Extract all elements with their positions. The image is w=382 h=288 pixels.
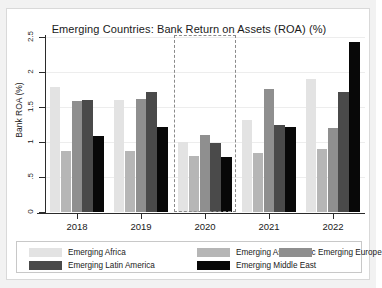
x-axis-line: [37, 213, 365, 214]
bar: [157, 127, 167, 212]
bar: [146, 92, 156, 212]
bar: [317, 149, 327, 212]
y-tick-mark: [39, 177, 45, 178]
y-tick-label: 2: [26, 63, 35, 81]
y-tick-label: 1.5: [26, 98, 35, 116]
y-tick-label: 0: [26, 203, 35, 221]
bar: [264, 89, 274, 212]
bar: [242, 120, 252, 212]
x-tick-mark: [77, 214, 78, 219]
bar: [178, 142, 188, 212]
y-tick-mark: [39, 107, 45, 108]
bar: [285, 127, 295, 212]
bar: [306, 79, 316, 212]
bar: [221, 157, 231, 212]
chart-title: Emerging Countries: Bank Return on Asset…: [7, 23, 371, 35]
legend-swatch-icon: [29, 248, 62, 257]
x-tick-label: 2021: [246, 221, 292, 232]
bar: [253, 153, 263, 213]
bar: [93, 136, 103, 212]
legend-item[interactable]: Emerging Africa: [29, 245, 126, 259]
y-tick-label: 2.5: [26, 28, 35, 46]
x-tick-mark: [333, 214, 334, 219]
legend-label: Emerging Europe: [318, 248, 382, 257]
y-axis-line: [45, 35, 46, 214]
bar: [114, 100, 124, 212]
bar: [136, 99, 146, 212]
bar: [328, 128, 338, 212]
gridline: [45, 37, 365, 38]
legend-swatch-icon: [279, 248, 312, 257]
legend-label: Emerging Africa: [68, 248, 126, 257]
bar: [349, 42, 359, 212]
bar: [72, 101, 82, 212]
x-tick-label: 2022: [310, 221, 356, 232]
legend-label: Emerging Latin America: [68, 261, 155, 270]
x-tick-mark: [205, 214, 206, 219]
legend-swatch-icon: [197, 248, 230, 257]
figure-canvas: Emerging Countries: Bank Return on Asset…: [6, 8, 370, 280]
bar: [189, 156, 199, 212]
legend-item[interactable]: Emerging Middle East: [197, 258, 316, 272]
x-tick-mark: [269, 214, 270, 219]
legend-row: Emerging AfricaEmerging Asia-PacificEmer…: [17, 245, 361, 259]
y-tick-mark: [39, 37, 45, 38]
bar: [50, 87, 60, 212]
bar: [125, 151, 135, 212]
legend-item[interactable]: Emerging Europe: [279, 245, 382, 259]
bar: [200, 135, 210, 212]
bar: [82, 100, 92, 212]
y-tick-mark: [39, 212, 45, 213]
x-tick-label: 2019: [118, 221, 164, 232]
legend-swatch-icon: [197, 261, 230, 270]
y-tick-label: 1: [26, 133, 35, 151]
bar: [61, 151, 71, 212]
gridline: [45, 72, 365, 73]
legend-label: Emerging Middle East: [236, 261, 316, 270]
bar: [274, 125, 284, 213]
legend-swatch-icon: [29, 261, 62, 270]
y-tick-label: .5: [26, 168, 35, 186]
chart-legend: Emerging AfricaEmerging Asia-PacificEmer…: [16, 241, 362, 273]
x-tick-mark: [141, 214, 142, 219]
x-tick-label: 2018: [54, 221, 100, 232]
y-axis-title: Bank ROA (%): [14, 71, 24, 149]
bar: [338, 92, 348, 212]
y-tick-mark: [39, 72, 45, 73]
x-tick-label: 2020: [182, 221, 228, 232]
legend-item[interactable]: Emerging Latin America: [29, 258, 155, 272]
legend-row: Emerging Latin AmericaEmerging Middle Ea…: [17, 258, 361, 272]
bar: [210, 143, 220, 212]
y-tick-mark: [39, 142, 45, 143]
gridline: [45, 107, 365, 108]
